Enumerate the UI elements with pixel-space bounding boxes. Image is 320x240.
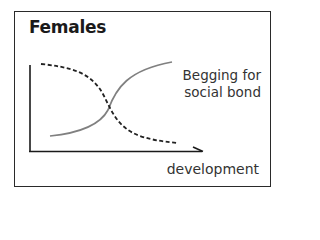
curve-label: Begging for social bond	[168, 67, 261, 101]
x-axis-label: development	[135, 161, 259, 178]
dashed-curve	[41, 64, 178, 143]
begging-social-bond-curve	[50, 62, 172, 136]
curve-label-line1: Begging for	[168, 67, 261, 84]
curve-label-line2: social bond	[168, 84, 261, 101]
